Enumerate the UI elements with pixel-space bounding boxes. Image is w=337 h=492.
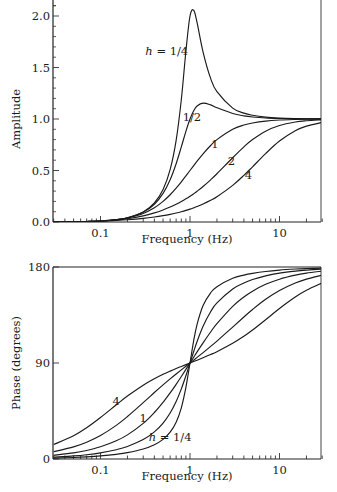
y-ticks: 0.00.51.01.52.0 — [32, 6, 59, 229]
y-tick-label: 2.0 — [32, 9, 50, 23]
curve-h-1 — [54, 119, 323, 222]
y-axis-title: Phase (degrees) — [9, 316, 23, 410]
curve-label-4: 4 — [245, 168, 252, 182]
y-tick-label: 1.5 — [32, 61, 50, 75]
curve-h-4 — [54, 122, 323, 222]
curve-label-2: 2 — [228, 154, 235, 168]
curve-label-1: 1 — [211, 137, 218, 151]
curve-h-4 — [54, 283, 323, 445]
phase-plot: 0.1110090180Frequency (Hz)Phase (degrees… — [9, 260, 322, 483]
y-tick-label: 0.5 — [32, 164, 50, 178]
amplitude-plot: 0.11100.00.51.01.52.0Frequency (Hz)Ampli… — [9, 0, 322, 246]
curve-label-1: 1 — [140, 411, 147, 425]
y-tick-label: 0.0 — [32, 215, 50, 229]
x-tick-label: 10 — [272, 226, 287, 240]
curve-label-1-2: 1/2 — [183, 110, 202, 124]
x-tick-label: 0.1 — [91, 226, 109, 240]
curve-label-4: 4 — [113, 394, 120, 408]
curve-labels: h = 1/41/2124 — [145, 44, 252, 182]
curve-h-2 — [54, 120, 323, 222]
curve-label-h-1-4: h = 1/4 — [145, 44, 188, 58]
y-tick-label: 180 — [28, 260, 50, 274]
figure: 0.11100.00.51.01.52.0Frequency (Hz)Ampli… — [0, 0, 337, 492]
x-axis-title: Frequency (Hz) — [142, 469, 233, 483]
y-ticks: 090180 — [28, 260, 59, 466]
y-axis-title: Amplitude — [9, 89, 23, 150]
curve-label-h-1-4: h = 1/4 — [149, 430, 192, 444]
y-tick-label: 1.0 — [32, 112, 50, 126]
x-tick-label: 0.1 — [91, 463, 109, 477]
y-tick-label: 90 — [35, 356, 50, 370]
x-axis-title: Frequency (Hz) — [142, 232, 233, 246]
y-tick-label: 0 — [43, 452, 50, 466]
x-tick-label: 10 — [272, 463, 287, 477]
